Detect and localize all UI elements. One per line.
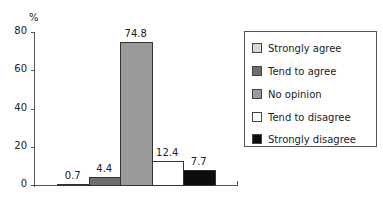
y-tick-mark <box>31 70 35 71</box>
bar-no-opinion <box>120 42 153 186</box>
legend-label: Strongly agree <box>268 43 342 54</box>
legend: Strongly agree Tend to agree No opinion … <box>244 31 377 147</box>
legend-item-strongly-disagree: Strongly disagree <box>252 133 356 145</box>
bar-strongly-disagree <box>183 170 216 186</box>
y-tick-mark <box>31 109 35 110</box>
y-tick-mark <box>31 32 35 33</box>
legend-item-strongly-agree: Strongly agree <box>252 42 342 54</box>
legend-swatch-tend-to-disagree <box>252 112 262 122</box>
y-axis-line <box>34 32 35 187</box>
legend-item-no-opinion: No opinion <box>252 88 322 100</box>
bar-value-label: 0.7 <box>57 170 89 181</box>
bar-tend-to-agree <box>89 177 122 186</box>
y-tick-label: 20 <box>7 140 27 151</box>
legend-label: Tend to disagree <box>268 112 351 123</box>
legend-label: Tend to agree <box>268 66 336 77</box>
y-tick-mark <box>31 147 35 148</box>
bar-value-label: 74.8 <box>120 28 152 39</box>
legend-label: No opinion <box>268 89 322 100</box>
legend-item-tend-to-agree: Tend to agree <box>252 65 336 77</box>
y-tick-mark <box>31 185 35 186</box>
y-tick-label: 60 <box>7 63 27 74</box>
bar-value-label: 12.4 <box>152 147 184 158</box>
y-tick-label: 40 <box>7 102 27 113</box>
y-tick-label: 80 <box>7 25 27 36</box>
bar-value-label: 4.4 <box>89 163 121 174</box>
y-axis-unit-label: % <box>29 12 39 23</box>
legend-item-tend-to-disagree: Tend to disagree <box>252 111 351 123</box>
legend-swatch-tend-to-agree <box>252 66 262 76</box>
bar-value-label: 7.7 <box>183 156 215 167</box>
legend-label: Strongly disagree <box>268 134 356 145</box>
y-tick-label: 0 <box>7 178 27 189</box>
x-axis-end-tick <box>237 181 238 186</box>
bar-strongly-agree <box>57 184 90 187</box>
legend-swatch-strongly-agree <box>252 43 262 53</box>
legend-swatch-strongly-disagree <box>252 134 262 144</box>
bar-tend-to-disagree <box>152 161 185 186</box>
legend-swatch-no-opinion <box>252 89 262 99</box>
